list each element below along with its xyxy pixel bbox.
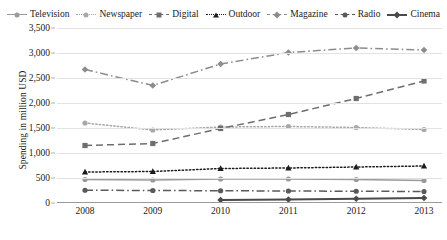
legend-marker-circle-icon xyxy=(15,13,20,18)
legend-marker-square-icon xyxy=(157,13,162,18)
legend-item-cinema[interactable]: Cinema xyxy=(387,10,440,20)
legend-label: Newspaper xyxy=(99,10,142,20)
legend-marker-circle-icon xyxy=(84,13,89,18)
legend-marker-triangle-icon xyxy=(213,13,219,18)
legend-key-icon xyxy=(149,10,169,20)
gridline xyxy=(57,178,442,179)
x-axis-line xyxy=(57,202,442,203)
legend-key-icon xyxy=(76,10,96,20)
x-axis-tick-labels: 200820092010201120122013 xyxy=(57,206,442,224)
legend-item-television[interactable]: Television xyxy=(7,10,69,20)
y-axis-tick-label: 3,500 xyxy=(29,23,50,33)
y-axis-tick-mark xyxy=(51,78,55,79)
y-axis-tick-mark xyxy=(51,128,55,129)
y-axis-tick-label: 1,000 xyxy=(29,148,50,158)
gridlines-layer xyxy=(57,28,442,203)
gridline xyxy=(57,78,442,79)
y-axis-tick-mark xyxy=(51,28,55,29)
line-chart: TelevisionNewspaperDigitalOutdoorMagazin… xyxy=(0,0,447,240)
legend-item-radio[interactable]: Radio xyxy=(335,10,381,20)
y-axis-tick-label: 2,000 xyxy=(29,98,50,108)
y-axis-tick-label: 0 xyxy=(45,198,50,208)
y-axis-tick-labels: 05001,0001,5002,0002,5003,0003,500 xyxy=(0,28,55,203)
gridline xyxy=(57,28,442,29)
legend-item-magazine[interactable]: Magazine xyxy=(267,10,327,20)
legend-key-icon xyxy=(206,10,226,20)
x-axis-tick-label: 2010 xyxy=(211,206,230,216)
chart-legend: TelevisionNewspaperDigitalOutdoorMagazin… xyxy=(0,6,447,24)
legend-marker-diamond-icon xyxy=(274,11,281,18)
plot-area xyxy=(57,28,442,203)
x-axis-tick-label: 2011 xyxy=(279,206,298,216)
legend-item-newspaper[interactable]: Newspaper xyxy=(76,10,142,20)
legend-key-icon xyxy=(335,10,355,20)
y-axis-tick-mark xyxy=(51,178,55,179)
gridline xyxy=(57,103,442,104)
y-axis-tick-mark xyxy=(51,203,55,204)
x-axis-tick-label: 2012 xyxy=(347,206,366,216)
legend-label: Magazine xyxy=(290,10,327,20)
legend-key-icon xyxy=(267,10,287,20)
x-axis-tick-label: 2013 xyxy=(415,206,434,216)
legend-label: Television xyxy=(30,10,69,20)
legend-label: Outdoor xyxy=(229,10,261,20)
gridline xyxy=(57,53,442,54)
y-axis-tick-label: 500 xyxy=(36,173,50,183)
y-axis-tick-mark xyxy=(51,103,55,104)
legend-label: Radio xyxy=(358,10,381,20)
gridline xyxy=(57,128,442,129)
x-axis-tick-label: 2009 xyxy=(143,206,162,216)
y-axis-tick-mark xyxy=(51,153,55,154)
x-axis-tick-label: 2008 xyxy=(76,206,95,216)
legend-key-icon xyxy=(387,10,407,20)
legend-marker-diamond-icon xyxy=(394,11,401,18)
y-axis-tick-label: 3,000 xyxy=(29,48,50,58)
legend-item-outdoor[interactable]: Outdoor xyxy=(206,10,261,20)
legend-item-digital[interactable]: Digital xyxy=(149,10,198,20)
legend-label: Cinema xyxy=(410,10,440,20)
gridline xyxy=(57,153,442,154)
y-axis-tick-label: 1,500 xyxy=(29,123,50,133)
y-axis-tick-label: 2,500 xyxy=(29,73,50,83)
legend-marker-circle-icon xyxy=(342,13,347,18)
legend-key-icon xyxy=(7,10,27,20)
y-axis-tick-mark xyxy=(51,53,55,54)
legend-label: Digital xyxy=(172,10,198,20)
